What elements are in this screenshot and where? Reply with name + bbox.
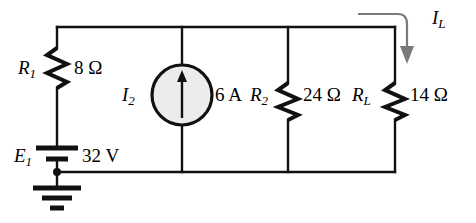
label-rl-value: 14 Ω: [410, 85, 448, 104]
label-rl-subscript: L: [364, 93, 371, 108]
load-current-arrow-head: [400, 46, 414, 64]
label-r1-value: 8 Ω: [74, 58, 102, 77]
label-load-current-subscript: L: [438, 16, 445, 31]
label-rl: RL: [352, 85, 371, 107]
circuit-schematic-svg: [0, 0, 476, 223]
label-rl-name: R: [352, 84, 364, 105]
label-r1-subscript: 1: [30, 66, 37, 81]
load-current-arrow-path: [358, 14, 407, 48]
label-r1-name: R: [18, 57, 30, 78]
label-e1: E1: [14, 146, 32, 168]
circuit-diagram: R1 8 Ω E1 32 V I2 6 A R2 24 Ω RL 14 Ω IL: [0, 0, 476, 223]
label-r2-value: 24 Ω: [303, 85, 341, 104]
ground-symbol: [33, 188, 81, 208]
label-i2-value: 6 A: [215, 85, 242, 104]
label-load-current: IL: [432, 8, 446, 30]
resistor-rl-zigzag: [385, 83, 405, 120]
label-e1-subscript: 1: [26, 154, 33, 169]
label-r2-subscript: 2: [262, 93, 269, 108]
label-i2-subscript: 2: [128, 93, 135, 108]
resistor-r2-zigzag: [278, 83, 298, 120]
label-r2-name: R: [250, 84, 262, 105]
resistor-r1-zigzag: [47, 48, 67, 88]
label-r1: R1: [18, 58, 36, 80]
label-e1-value: 32 V: [82, 146, 119, 165]
node-dot-ground: [53, 168, 61, 176]
label-r2: R2: [250, 85, 268, 107]
load-current-arrow: [358, 14, 414, 64]
battery-e1-symbol: [36, 148, 78, 159]
label-i2: I2: [122, 85, 135, 107]
label-e1-name: E: [14, 145, 26, 166]
